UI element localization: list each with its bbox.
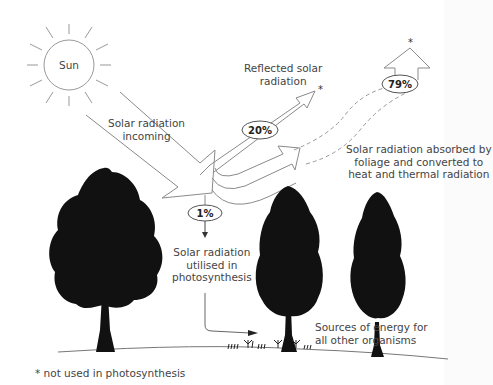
sun-label: Sun bbox=[59, 59, 79, 71]
reflected-label-line2: radiation bbox=[244, 75, 322, 88]
absorbed-label: Solar radiation absorbed by foliage and … bbox=[346, 143, 492, 181]
incoming-label: Solar radiation incoming bbox=[108, 117, 185, 142]
ground-line bbox=[58, 347, 448, 359]
absorbed-label-line1: Solar radiation absorbed by bbox=[346, 143, 492, 156]
photosynthesis-label-line2: utilised in bbox=[172, 259, 252, 272]
percent-1-text: 1% bbox=[197, 208, 214, 219]
reflected-label: Reflected solar radiation bbox=[244, 62, 322, 87]
tree-large bbox=[49, 168, 162, 352]
footnote: * not used in photosynthesis bbox=[35, 367, 185, 380]
photosynthesis-arrow bbox=[205, 293, 258, 336]
sources-label-line2: all other organisms bbox=[315, 334, 428, 347]
absorbed-label-line2: foliage and converted to bbox=[346, 156, 492, 169]
asterisk-thermal: * bbox=[408, 37, 413, 48]
incoming-label-line2: incoming bbox=[108, 130, 185, 143]
incoming-label-line1: Solar radiation bbox=[108, 117, 185, 130]
absorbed-label-line3: heat and thermal radiation bbox=[346, 168, 492, 181]
photosynthesis-label-line3: photosynthesis bbox=[172, 271, 252, 284]
photosynthesis-label: Solar radiation utilised in photosynthes… bbox=[172, 246, 252, 284]
tree-middle bbox=[256, 186, 323, 352]
percent-79-text: 79% bbox=[388, 79, 412, 90]
percent-20-text: 20% bbox=[248, 125, 272, 136]
sources-label-line1: Sources of energy for bbox=[315, 321, 428, 334]
reflected-label-line1: Reflected solar bbox=[244, 62, 322, 75]
sources-label: Sources of energy for all other organism… bbox=[315, 321, 428, 346]
photosynthesis-label-line1: Solar radiation bbox=[172, 246, 252, 259]
